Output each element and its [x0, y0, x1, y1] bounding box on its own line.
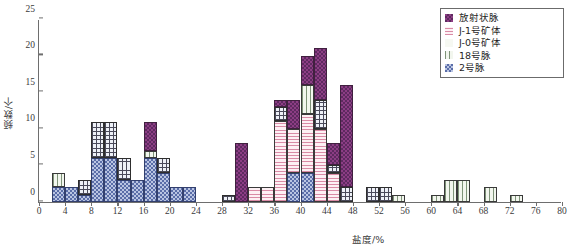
bar-segment — [327, 165, 340, 172]
bar-segment — [457, 180, 470, 202]
bar-stack — [131, 180, 144, 202]
bar-segment — [392, 195, 405, 202]
x-tick-label: 8 — [89, 207, 94, 217]
bar-stack — [431, 195, 444, 202]
bar-stack — [104, 121, 117, 202]
bar-segment — [78, 195, 91, 202]
legend-swatch-icon — [445, 39, 453, 47]
bar-stack — [157, 158, 170, 202]
bar-segment — [52, 173, 65, 188]
bar-segment — [248, 187, 261, 202]
bar-segment — [261, 187, 274, 202]
bar-stack — [392, 195, 405, 202]
x-tick-label: 16 — [139, 207, 149, 217]
x-tick-label: 48 — [348, 207, 358, 217]
bar-segment — [301, 56, 314, 85]
bar-segment — [366, 187, 379, 202]
bar-segment — [274, 121, 287, 202]
bar-segment — [287, 129, 300, 173]
bar-segment — [379, 187, 392, 202]
x-tick-label: 76 — [531, 207, 541, 217]
legend-item[interactable]: 2号脉 — [445, 62, 558, 74]
bar-stack — [52, 173, 65, 202]
y-tick-label: 10 — [26, 115, 36, 125]
bar-segment — [327, 143, 340, 165]
bar-segment — [314, 129, 327, 202]
bar-segment — [431, 195, 444, 202]
bar-stack — [366, 187, 379, 202]
x-tick-label: 80 — [557, 207, 567, 217]
x-tick-label: 0 — [37, 207, 42, 217]
x-tick-label: 72 — [505, 207, 515, 217]
x-axis-label: 盐度/% — [352, 232, 384, 246]
legend-label: 放射状脉 — [459, 13, 499, 23]
bar-segment — [52, 187, 65, 202]
bar-stack — [484, 187, 497, 202]
bar-stack — [78, 180, 91, 202]
y-tick-mark — [39, 164, 43, 165]
bar-segment — [117, 180, 130, 202]
y-tick-label: 20 — [26, 41, 36, 51]
bar-stack — [235, 143, 248, 202]
bar-stack — [301, 56, 314, 202]
bar-stack — [444, 180, 457, 202]
legend-swatch-icon — [445, 27, 453, 35]
bar-segment — [183, 187, 196, 202]
x-tick-label: 40 — [296, 207, 306, 217]
bar-stack — [144, 121, 157, 202]
bar-segment — [301, 85, 314, 114]
bar-segment — [144, 158, 157, 202]
legend-label: J-1号矿体 — [459, 26, 501, 36]
bar-segment — [170, 187, 183, 202]
bar-segment — [131, 180, 144, 202]
bar-segment — [484, 187, 497, 202]
x-tick-label: 56 — [400, 207, 410, 217]
x-tick-label: 32 — [243, 207, 253, 217]
y-tick-mark — [39, 54, 43, 55]
x-tick-label: 4 — [63, 207, 68, 217]
bar-segment — [510, 195, 523, 202]
histogram-chart: 频数/个 盐度/% 0510152025 0481216202428323640… — [0, 0, 572, 251]
bar-segment — [104, 158, 117, 202]
bar-segment — [444, 180, 457, 202]
bar-stack — [327, 143, 340, 202]
bar-segment — [287, 100, 300, 129]
y-tick-label: 25 — [26, 5, 36, 15]
y-tick-mark — [39, 127, 43, 128]
x-tick-label: 24 — [191, 207, 201, 217]
bar-segment — [91, 122, 104, 159]
legend: 放射状脉J-1号矿体J-0号矿体18号脉2号脉 — [440, 8, 564, 78]
bar-stack — [340, 85, 353, 202]
legend-swatch-icon — [445, 14, 453, 22]
bar-segment — [91, 158, 104, 202]
legend-item[interactable]: 18号脉 — [445, 49, 558, 61]
bar-segment — [340, 85, 353, 187]
bar-segment — [157, 173, 170, 202]
legend-label: J-0号矿体 — [459, 38, 501, 48]
bar-stack — [248, 187, 261, 202]
y-tick-label: 15 — [26, 78, 36, 88]
x-tick-label: 44 — [322, 207, 332, 217]
y-tick-mark — [39, 90, 43, 91]
bar-stack — [314, 48, 327, 202]
bar-segment — [78, 180, 91, 195]
x-tick-label: 20 — [165, 207, 175, 217]
x-tick-label: 36 — [270, 207, 280, 217]
bar-segment — [144, 122, 157, 151]
x-tick-label: 68 — [479, 207, 489, 217]
bar-stack — [170, 187, 183, 202]
legend-item[interactable]: J-1号矿体 — [445, 24, 558, 36]
bar-segment — [340, 187, 353, 202]
bar-segment — [65, 187, 78, 202]
bar-stack — [510, 195, 523, 202]
x-tick-label: 52 — [374, 207, 384, 217]
bar-stack — [222, 195, 235, 202]
legend-label: 2号脉 — [459, 63, 485, 73]
bar-stack — [274, 100, 287, 202]
bar-segment — [301, 114, 314, 173]
bar-stack — [379, 187, 392, 202]
bar-segment — [157, 158, 170, 173]
legend-item[interactable]: J-0号矿体 — [445, 37, 558, 49]
legend-item[interactable]: 放射状脉 — [445, 12, 558, 24]
y-tick-label: 0 — [30, 188, 35, 198]
